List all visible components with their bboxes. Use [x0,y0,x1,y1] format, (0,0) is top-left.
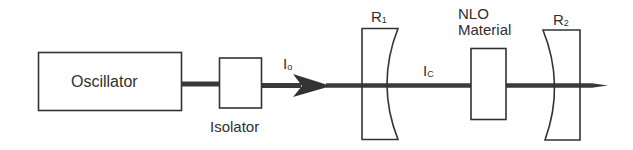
input-intensity-label: Io [283,56,292,72]
input-intensity-subscript: o [287,62,292,72]
cavity-intensity-label: IC [423,63,434,79]
nlo-label-line1: NLO [458,6,511,22]
cavity-intensity-subscript: C [427,69,434,79]
optical-setup-diagram: Oscillator Isolator Io R1 IC NLO Materia… [0,0,633,150]
isolator-label: Isolator [210,119,259,134]
mirror-r2-subscript: 2 [564,18,569,28]
nlo-material-label: NLO Material [458,6,511,38]
oscillator-isolator-link [181,82,220,87]
cavity-beam [326,83,608,88]
mirror-r1-label: R1 [371,9,387,25]
mirror-r1-subscript: 1 [382,15,387,25]
isolator-box [220,58,262,108]
nlo-material-box [471,49,506,120]
nlo-label-line2: Material [458,22,511,38]
mirror-r2-label: R2 [553,12,569,28]
mirror-r2-symbol: R [553,11,564,28]
mirror-r1-symbol: R [371,8,382,25]
input-beam [261,83,301,88]
oscillator-label: Oscillator [71,74,138,90]
